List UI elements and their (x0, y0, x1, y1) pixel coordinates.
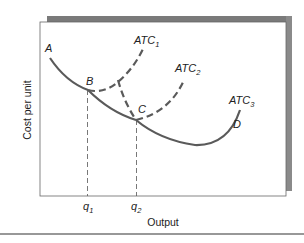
x-axis-title: Output (147, 216, 179, 228)
point-d-label: D (233, 118, 241, 130)
y-axis-title: Cost per unit (21, 80, 33, 140)
plot-area (40, 22, 286, 196)
frame-shadow-right (286, 16, 292, 191)
point-c-label: C (138, 103, 146, 115)
point-a-label: A (44, 42, 52, 54)
q1-tick-label: q1 (83, 200, 93, 215)
diagram-figure: ATC1 ATC2 ATC3 A B C D q1 q2 Output Cost… (0, 0, 304, 243)
q2-tick-label: q2 (131, 200, 142, 215)
point-b-label: B (86, 75, 93, 87)
